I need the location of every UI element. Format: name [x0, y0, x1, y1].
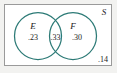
value-outside-both: .14: [98, 55, 108, 64]
venn-diagram-canvas: E F S .23 .33 .30 .14: [0, 0, 117, 73]
venn-diagram-figure: E F S .23 .33 .30 .14: [0, 0, 117, 73]
value-intersection: .33: [51, 33, 61, 42]
value-e-only: .23: [28, 33, 38, 42]
label-sample-space-s: S: [102, 7, 107, 17]
label-set-e: E: [29, 21, 36, 31]
value-f-only: .30: [72, 33, 82, 42]
label-set-f: F: [69, 21, 76, 31]
